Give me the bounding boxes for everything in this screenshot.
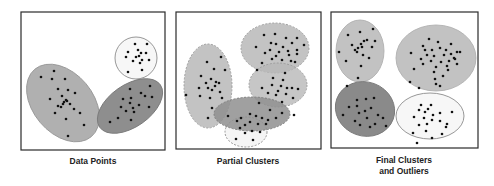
data-point xyxy=(445,49,448,52)
data-point xyxy=(445,126,448,129)
data-point xyxy=(370,107,373,110)
data-point xyxy=(281,101,284,104)
data-point xyxy=(347,34,350,37)
data-point xyxy=(284,72,287,75)
data-point xyxy=(430,104,433,107)
data-point xyxy=(442,75,445,78)
data-point xyxy=(109,121,112,124)
data-point xyxy=(269,109,272,112)
data-point xyxy=(287,50,290,53)
data-point xyxy=(297,88,300,91)
data-point xyxy=(435,83,438,86)
data-point xyxy=(129,88,132,91)
data-point xyxy=(369,126,372,129)
data-point xyxy=(431,119,434,122)
data-point xyxy=(434,78,437,81)
data-point xyxy=(371,46,374,49)
data-point xyxy=(285,37,288,40)
data-point xyxy=(255,46,258,49)
data-point xyxy=(259,131,262,134)
data-point xyxy=(244,132,247,135)
data-point xyxy=(251,130,254,133)
data-point xyxy=(431,137,434,140)
data-point xyxy=(361,46,364,49)
data-point xyxy=(426,123,429,126)
data-point xyxy=(356,105,359,108)
data-point xyxy=(409,81,412,84)
data-point xyxy=(261,62,264,65)
data-point xyxy=(412,132,415,135)
data-point xyxy=(261,117,264,120)
data-point xyxy=(271,84,274,87)
data-point xyxy=(425,130,428,133)
data-point xyxy=(224,69,227,72)
data-point xyxy=(120,106,123,109)
data-point xyxy=(127,51,130,54)
data-point xyxy=(206,61,209,64)
data-point xyxy=(346,85,349,88)
data-point xyxy=(213,68,216,71)
data-point xyxy=(255,115,258,118)
data-point xyxy=(459,51,462,54)
data-point xyxy=(240,117,243,120)
data-point xyxy=(374,40,377,43)
data-point xyxy=(127,71,130,74)
data-point xyxy=(209,97,212,100)
data-point xyxy=(422,45,425,48)
data-point xyxy=(67,135,70,138)
caption-final-clusters-and-outliers: Final Clusters and Outliers xyxy=(344,155,464,177)
data-point xyxy=(141,69,144,72)
data-point xyxy=(277,90,280,93)
data-point xyxy=(423,117,426,120)
data-point xyxy=(227,115,230,118)
data-point xyxy=(280,85,283,88)
data-point xyxy=(292,97,295,100)
caption-line: Final Clusters xyxy=(344,155,464,166)
data-point xyxy=(431,49,434,52)
data-point xyxy=(137,49,140,52)
data-point xyxy=(199,95,202,98)
data-point xyxy=(440,61,443,64)
data-point xyxy=(149,85,152,88)
data-point xyxy=(450,43,453,46)
data-point xyxy=(270,42,273,45)
cluster-top-right-ellipse xyxy=(396,25,476,91)
data-point xyxy=(73,108,76,111)
data-point xyxy=(83,124,86,127)
data-point xyxy=(418,109,421,112)
data-point xyxy=(356,51,359,54)
data-point xyxy=(426,54,429,57)
data-point xyxy=(420,58,423,61)
data-point xyxy=(382,117,385,120)
data-point xyxy=(218,82,221,85)
data-point xyxy=(151,96,154,99)
data-point xyxy=(432,114,435,117)
data-point xyxy=(211,107,214,110)
caption-data-points: Data Points xyxy=(33,156,153,167)
data-point xyxy=(416,142,419,145)
cluster-top-left-ellipse xyxy=(336,20,384,82)
data-point xyxy=(418,124,421,127)
data-point xyxy=(221,97,224,100)
data-point xyxy=(373,97,376,100)
data-point xyxy=(132,107,135,110)
data-point xyxy=(447,69,450,72)
data-point xyxy=(275,43,278,46)
data-point xyxy=(129,102,132,105)
data-point xyxy=(49,98,52,101)
data-point xyxy=(354,120,357,123)
data-point xyxy=(269,49,272,52)
data-point xyxy=(285,93,288,96)
data-point xyxy=(413,116,416,119)
data-point xyxy=(235,138,238,141)
data-point xyxy=(140,92,143,95)
data-point xyxy=(291,42,294,45)
data-point xyxy=(275,117,278,120)
data-point xyxy=(148,106,151,109)
data-point xyxy=(443,54,446,57)
data-point xyxy=(132,60,135,63)
data-point xyxy=(252,139,255,142)
data-point xyxy=(446,123,449,126)
data-point xyxy=(385,125,388,128)
data-point xyxy=(257,123,260,126)
